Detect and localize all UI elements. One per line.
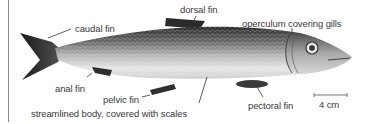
- anal-fin-leader: [87, 73, 92, 77]
- pelvic-fin-shape: [150, 84, 176, 95]
- scale-bar-label: 4 cm: [319, 100, 339, 110]
- caudal-fin-leader: [48, 29, 71, 38]
- scale-bar: [314, 93, 347, 97]
- label-anal-fin: anal fin: [55, 84, 85, 94]
- label-dorsal-fin: dorsal fin: [180, 5, 218, 15]
- label-pectoral-fin: pectoral fin: [248, 101, 293, 111]
- label-body: streamlined body, covered with scales: [31, 109, 187, 119]
- body-leader: [199, 77, 207, 103]
- pectoral-fin-shape: [236, 80, 268, 88]
- label-pelvic-fin: pelvic fin: [103, 95, 139, 105]
- fish-head-shape: [285, 32, 352, 74]
- label-operculum: operculum covering gills: [242, 19, 342, 29]
- label-caudal-fin: caudal fin: [75, 24, 115, 34]
- pelvic-fin-leader: [142, 95, 150, 97]
- pectoral-fin-leader: [257, 87, 263, 97]
